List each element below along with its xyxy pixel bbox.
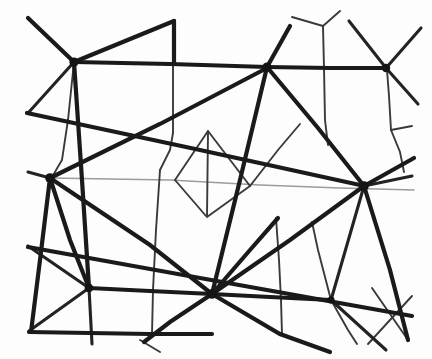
network-svg-canvas	[0, 0, 432, 359]
node-bottom-right	[327, 296, 334, 303]
y-junction-stem	[323, 26, 324, 68]
kite-center-spine	[207, 132, 208, 216]
node-bottom-left	[85, 284, 94, 293]
edge-topmid-topright	[267, 67, 386, 68]
node-top-mid	[262, 62, 271, 71]
node-right-hub	[359, 181, 369, 191]
node-left-hub	[45, 173, 55, 183]
node-top-left	[69, 57, 78, 66]
node-top-right	[382, 64, 390, 72]
network-diagram-figure: Irregular line network diagram	[0, 0, 432, 359]
edge-bottom-low-horizontal	[29, 332, 212, 334]
node-bottom-mid	[207, 289, 217, 299]
